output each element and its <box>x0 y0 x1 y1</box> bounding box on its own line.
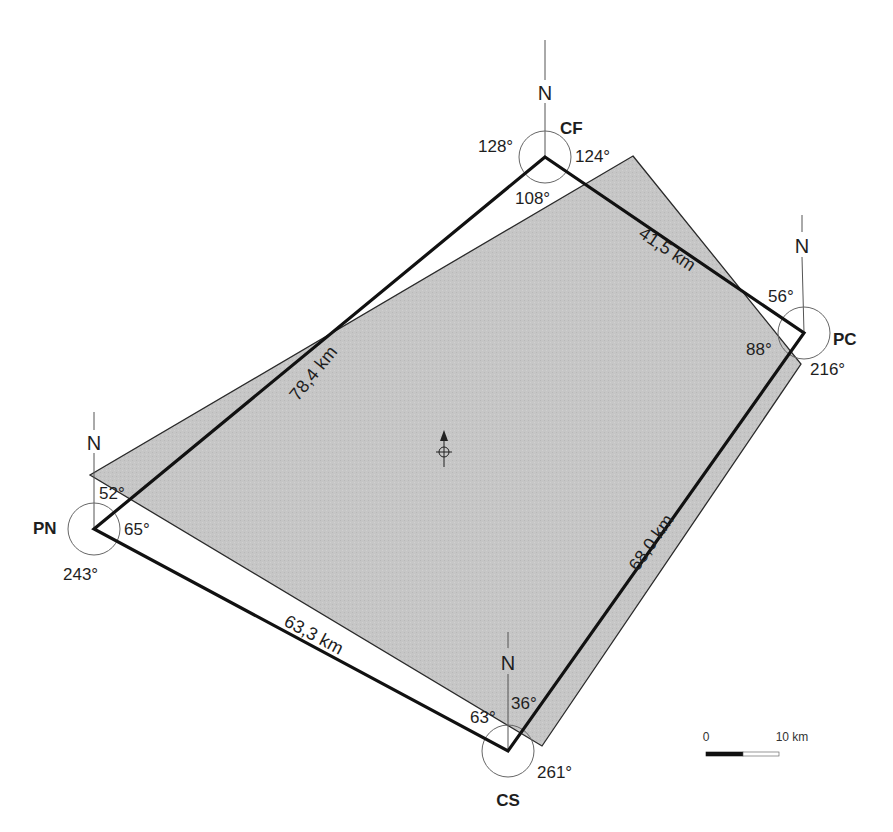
angle-cs-north: 36° <box>511 694 537 713</box>
angle-pn-north: 52° <box>99 484 125 503</box>
angle-pc-north: 56° <box>768 287 794 306</box>
angle-pn-interior: 65° <box>124 520 150 539</box>
north-label-cs: N <box>501 652 515 674</box>
station-label-pn: PN <box>33 519 57 538</box>
angle-pn-outer: 243° <box>63 565 98 584</box>
angle-cf-east: 124° <box>575 147 610 166</box>
coverage-area <box>90 156 801 746</box>
scale-end-label: 10 km <box>776 730 809 744</box>
north-label-cf: N <box>538 82 552 104</box>
survey-diagram: N N N N CF PC PN CS 128° 124° 108° 56° 8… <box>0 0 893 832</box>
scale-start-label: 0 <box>703 730 710 744</box>
station-label-cs: CS <box>496 791 520 810</box>
angle-pc-interior: 88° <box>746 340 772 359</box>
station-label-cf: CF <box>560 119 583 138</box>
angle-pc-outer: 216° <box>810 360 845 379</box>
north-label-pn: N <box>87 432 101 454</box>
angle-cf-interior: 108° <box>515 189 550 208</box>
angle-cs-west: 63° <box>470 708 496 727</box>
scale-bar: 0 10 km <box>703 730 809 756</box>
station-label-pc: PC <box>833 330 857 349</box>
north-label-pc: N <box>795 235 809 257</box>
angle-cs-outer: 261° <box>537 763 572 782</box>
angle-cf-west: 128° <box>478 137 513 156</box>
